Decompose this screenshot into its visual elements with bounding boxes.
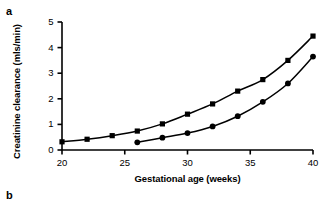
series-line-lower-series <box>137 57 313 143</box>
data-point-circle <box>185 130 191 136</box>
data-point-square <box>285 58 290 63</box>
figure-panel-a: a Creatinine clearance (mls/min) Gestati… <box>0 0 325 206</box>
data-point-circle <box>310 54 316 60</box>
series-line-upper-series <box>62 36 313 142</box>
data-point-square <box>59 139 64 144</box>
data-point-square <box>160 121 165 126</box>
data-point-square <box>135 128 140 133</box>
plot-area <box>0 0 325 206</box>
data-point-circle <box>134 139 140 145</box>
data-point-circle <box>260 99 266 105</box>
data-point-square <box>110 133 115 138</box>
data-point-circle <box>235 113 241 119</box>
data-point-square <box>235 89 240 94</box>
data-point-square <box>260 77 265 82</box>
series-group <box>59 33 316 145</box>
panel-label-b: b <box>6 190 13 201</box>
data-point-square <box>185 112 190 117</box>
data-point-square <box>85 137 90 142</box>
data-point-circle <box>210 124 216 130</box>
data-point-square <box>210 101 215 106</box>
data-point-square <box>310 33 315 38</box>
data-point-circle <box>160 135 166 141</box>
data-point-circle <box>285 81 291 87</box>
